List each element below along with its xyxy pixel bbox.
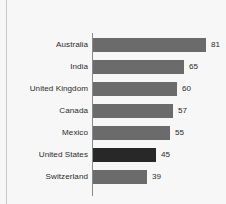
bar (93, 82, 177, 96)
bar-fill (93, 104, 173, 118)
bar-category-label: Australia (56, 38, 88, 52)
bar-fill (93, 38, 206, 52)
bar (93, 104, 173, 118)
bar-value-label: 60 (182, 82, 191, 96)
bar-chart-figure: Australia81India65United Kingdom60Canada… (0, 0, 226, 204)
bar-row: United Kingdom60 (0, 82, 226, 96)
plot-area: Australia81India65United Kingdom60Canada… (0, 0, 226, 204)
bar-category-label: United States (39, 148, 88, 162)
bar (93, 126, 170, 140)
bar-value-label: 81 (211, 38, 220, 52)
bar-row: Mexico55 (0, 126, 226, 140)
bar-value-label: 57 (178, 104, 187, 118)
bar-row: Canada57 (0, 104, 226, 118)
bar-category-label: Switzerland (46, 170, 88, 184)
bar-row: India65 (0, 60, 226, 74)
bar-row: Switzerland39 (0, 170, 226, 184)
bar-value-label: 55 (175, 126, 184, 140)
bar-category-label: United Kingdom (30, 82, 88, 96)
bar-category-label: Mexico (62, 126, 88, 140)
bar (93, 60, 184, 74)
bar-fill (93, 126, 170, 140)
bar-category-label: India (70, 60, 88, 74)
bar-fill (93, 148, 156, 162)
bar-fill (93, 170, 147, 184)
bar-value-label: 65 (189, 60, 198, 74)
bar (93, 148, 156, 162)
bar-row: Australia81 (0, 38, 226, 52)
bar (93, 170, 147, 184)
bar-value-label: 45 (161, 148, 170, 162)
bar-category-label: Canada (59, 104, 88, 118)
bar-row: United States45 (0, 148, 226, 162)
bar-fill (93, 82, 177, 96)
bar-value-label: 39 (152, 170, 161, 184)
bar-fill (93, 60, 184, 74)
bar (93, 38, 206, 52)
